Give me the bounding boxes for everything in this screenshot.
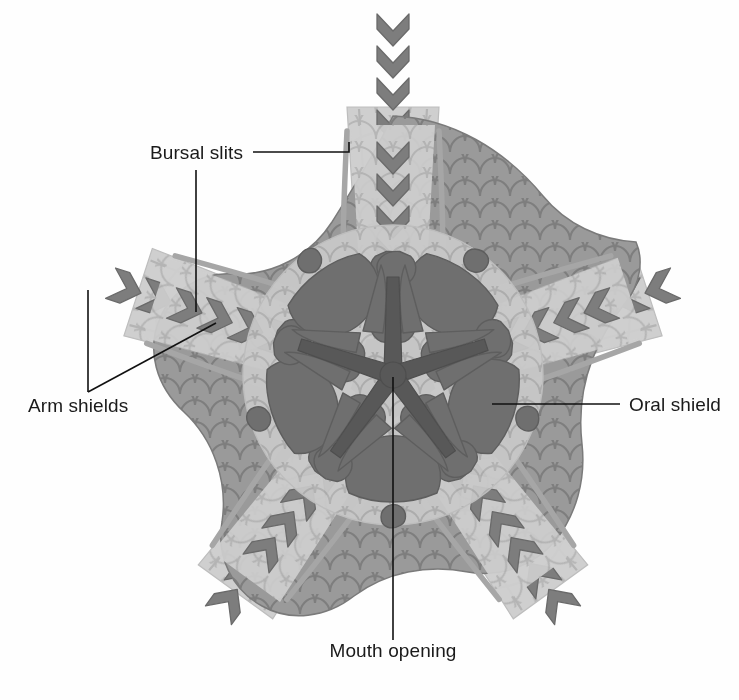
label-mouth-opening: Mouth opening: [329, 640, 456, 661]
brittle-star-diagram: Bursal slits Arm shields Oral shield Mou…: [0, 0, 739, 700]
label-arm-shields: Arm shields: [28, 395, 128, 416]
label-bursal-slits: Bursal slits: [150, 142, 243, 163]
figure-root: Bursal slits Arm shields Oral shield Mou…: [0, 0, 739, 700]
label-oral-shield: Oral shield: [629, 394, 721, 415]
